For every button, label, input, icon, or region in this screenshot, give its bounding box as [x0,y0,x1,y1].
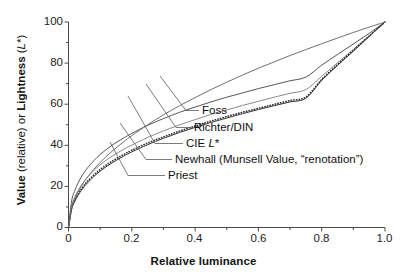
curve-label-richter-din: Richter/DIN [194,121,253,133]
y-axis-title-paren-close: *) [15,35,27,43]
y-axis-title-relative: (relative) or [15,111,27,176]
y-tick-label-20: 20 [26,179,63,191]
cie-prefix: CIE [186,137,208,149]
y-axis-title: Value (relative) or Lightness (L*) [15,13,27,227]
cie-star: * [215,137,219,149]
x-tick-label-0: 0 [49,232,88,244]
curve-label-foss: Foss [202,104,227,116]
y-axis-title-paren-open: ( [15,49,27,56]
y-tick-label-40: 40 [26,138,63,150]
curve-label-cie-lstar: CIE L* [186,137,219,149]
y-tick-label-0: 0 [26,220,63,232]
y-axis-title-value: Value [15,175,27,205]
curve-label-newhall: Newhall (Munsell Value, “renotation”) [175,153,363,165]
y-tick-label-100: 100 [26,15,63,27]
y-axis-title-lightness: Lightness [15,56,27,110]
y-axis-title-l-symbol: L [15,43,27,49]
x-tick-label-0.4: 0.4 [175,232,214,244]
y-tick-label-80: 80 [26,56,63,68]
x-tick-label-0.6: 0.6 [239,232,278,244]
lightness-curves-chart: 100 80 60 40 20 0 0 0.2 0.4 0.6 0.8 1.0 … [0,0,407,278]
x-tick-label-1.0: 1.0 [365,232,404,244]
x-tick-label-0.8: 0.8 [302,232,341,244]
x-tick-label-0.2: 0.2 [112,232,151,244]
y-tick-label-60: 60 [26,97,63,109]
curve-label-priest: Priest [168,169,197,181]
x-axis-title: Relative luminance [0,255,407,267]
